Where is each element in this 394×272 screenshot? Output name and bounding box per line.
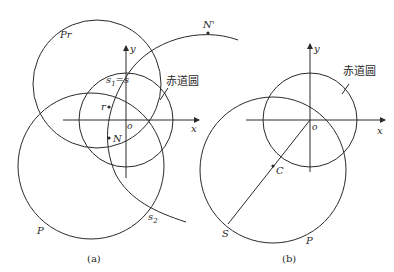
label-s2: s2 [148,212,158,225]
label-equator-b: 赤道圆 [343,66,376,77]
label-p-a: P [37,226,44,236]
label-c: C [276,166,284,176]
label-eq-s: =s [116,74,130,85]
caption-a: (a) [87,254,101,264]
point-c [271,164,274,167]
pr-circle [33,20,161,148]
line-o-s [228,120,310,224]
p-circle-b [200,97,346,243]
diagram-canvas: Pr N' y x o s1=s r N 赤道圆 P s2 (a) y x o … [0,0,394,272]
label-n-prime: N' [203,20,215,30]
point-r [107,105,110,108]
label-s1-eq-s: s1=s [106,75,129,88]
caption-b: (b) [282,254,296,264]
label-equator-a: 赤道圆 [166,76,199,87]
diagram-svg [0,0,394,272]
label-origin-b: o [312,123,317,132]
p-circle-a [18,93,164,239]
label-s: S [222,229,229,239]
label-y-a: y [130,44,136,54]
point-n [107,136,110,139]
label-n: N [113,134,122,144]
point-n-prime [206,31,209,34]
label-pr: Pr [60,30,72,40]
label-x-a: x [191,124,197,134]
label-p-b: P [306,236,313,246]
label-r: r [101,102,106,112]
label-y-b: y [314,44,320,54]
label-origin-a: o [127,122,132,131]
label-x-b: x [377,126,383,136]
label-s2-sub: 2 [153,217,157,225]
